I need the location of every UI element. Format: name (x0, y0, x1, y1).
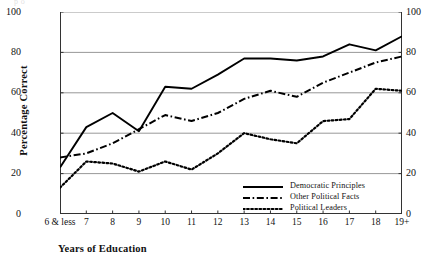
chart-figure: p o Percentage Correct Years of Educatio… (0, 0, 426, 265)
legend-item-other-political-facts: Other Political Facts (243, 192, 365, 203)
legend-swatch-dotted (243, 204, 283, 214)
x-tick-11: 11 (187, 218, 196, 228)
legend-item-democratic-principles: Democratic Principles (243, 181, 365, 192)
x-tick-14: 14 (266, 218, 276, 228)
y-tick-right-40: 40 (406, 128, 426, 138)
legend-swatch-solid (243, 182, 283, 192)
legend-label: Other Political Facts (290, 193, 359, 201)
x-tick-7: 7 (84, 218, 89, 228)
y-tick-right-100: 100 (406, 7, 426, 17)
x-tick-18: 18 (371, 218, 381, 228)
y-tick-left-100: 100 (0, 7, 21, 17)
y-tick-right-20: 20 (406, 168, 426, 178)
x-tick-16: 16 (318, 218, 328, 228)
y-tick-right-60: 60 (406, 87, 426, 97)
x-tick-15: 15 (292, 218, 302, 228)
x-tick-9: 9 (137, 218, 142, 228)
legend-label: Political Leaders (290, 204, 347, 212)
y-tick-left-40: 40 (0, 128, 21, 138)
x-tick-8: 8 (110, 218, 115, 228)
x-tick-17: 17 (345, 218, 355, 228)
page-bleed-text: p o (14, 0, 244, 8)
legend: Democratic PrinciplesOther Political Fac… (243, 181, 365, 214)
y-tick-left-80: 80 (0, 47, 21, 57)
x-tick-13: 13 (239, 218, 249, 228)
legend-label: Democratic Principles (290, 182, 365, 190)
x-tick-10: 10 (160, 218, 170, 228)
x-tick-12: 12 (213, 218, 223, 228)
legend-swatch-dashdot (243, 193, 283, 203)
series-line-political-leaders (60, 89, 402, 188)
x-axis-title: Years of Education (58, 243, 147, 254)
x-tick-19-: 19+ (395, 218, 410, 228)
y-axis-title: Percentage Correct (18, 41, 29, 181)
y-tick-left-60: 60 (0, 87, 21, 97)
y-tick-left-0: 0 (0, 209, 21, 219)
y-tick-left-20: 20 (0, 168, 21, 178)
legend-item-political-leaders: Political Leaders (243, 203, 365, 214)
x-tick-6-less: 6 & less (44, 218, 75, 228)
series-line-democratic-principles (60, 36, 402, 167)
y-tick-right-80: 80 (406, 47, 426, 57)
